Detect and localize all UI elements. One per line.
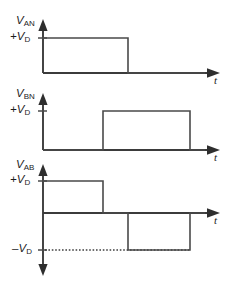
vbn-level-label-v: +V: [10, 103, 25, 115]
vbn-level-label: +VD: [10, 104, 30, 116]
vbn-axis-label-v: V: [16, 87, 24, 99]
vab-pos-level-label-sub: D: [25, 178, 31, 187]
van-axis-label-sub: AN: [24, 19, 35, 28]
vbn-y-axis-arrowhead: [38, 93, 47, 105]
vab-axis-label-v: V: [16, 158, 24, 170]
vab-y-axis-bottom-arrowhead: [38, 264, 47, 276]
waveform-figure: VAN +VD t VBN +VD t VAB +VD –VD t: [0, 0, 237, 283]
waveform-svg: [0, 0, 237, 283]
vab-neg-level-label-sub: D: [26, 247, 32, 256]
plot-van: [38, 19, 220, 78]
vab-pos-level-label: +VD: [10, 174, 30, 186]
vab-signal-trace: [43, 181, 205, 250]
vab-pos-level-label-v: +V: [10, 173, 25, 185]
van-y-axis-arrowhead: [38, 19, 47, 31]
van-axis-label: VAN: [16, 15, 35, 27]
vab-axis-label-sub: AB: [24, 163, 35, 172]
van-signal-trace: [43, 38, 205, 73]
vab-axis-label: VAB: [16, 159, 34, 171]
vbn-axis-label-sub: BN: [24, 92, 35, 101]
plot-vab: [38, 164, 220, 276]
van-level-label-sub: D: [25, 35, 31, 44]
vab-time-label: t: [214, 215, 217, 226]
vab-y-axis-top-arrowhead: [38, 164, 47, 176]
plot-vbn: [38, 93, 220, 155]
van-level-label-v: +V: [10, 30, 25, 42]
vbn-level-label-sub: D: [25, 108, 31, 117]
van-time-label: t: [214, 75, 217, 86]
van-level-label: +VD: [10, 31, 30, 43]
vbn-time-label: t: [214, 152, 217, 163]
vab-neg-level-label-v: –V: [12, 242, 26, 254]
vbn-axis-label: VBN: [16, 88, 35, 100]
vbn-signal-trace: [43, 111, 205, 150]
van-axis-label-v: V: [16, 14, 24, 26]
vab-neg-level-label: –VD: [12, 243, 32, 255]
